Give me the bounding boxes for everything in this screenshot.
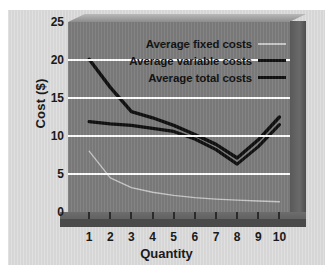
x-tick-mark	[215, 212, 217, 219]
x-tick-mark	[257, 212, 259, 219]
plot-area: Average fixed costs Average variable cos…	[68, 22, 290, 212]
legend-swatch-thin-line-icon	[258, 43, 286, 45]
x-tick-mark	[173, 212, 175, 219]
gridline-15	[68, 97, 290, 99]
y-tick-label: 5	[32, 168, 64, 180]
legend-label: Average variable costs	[129, 55, 252, 67]
series-line-average-fixed-costs	[89, 151, 279, 202]
x-tick-mark	[152, 212, 154, 219]
legend-label: Average total costs	[148, 72, 252, 84]
legend-label: Average fixed costs	[146, 38, 252, 50]
x-tick-mark	[236, 212, 238, 219]
x-tick-mark	[109, 212, 111, 219]
y-axis: Cost ($) 25 20 15 10 5 0	[28, 0, 64, 255]
legend-swatch-thick-line-icon	[258, 59, 286, 62]
chart-base-front	[60, 219, 306, 227]
x-tick-mark	[88, 212, 90, 219]
chart-legend: Average fixed costs Average variable cos…	[108, 36, 286, 86]
legend-entry-average-variable-costs: Average variable costs	[129, 53, 286, 68]
chart-top-bevel	[68, 14, 306, 22]
y-tick-label: 15	[32, 92, 64, 104]
x-tick-mark	[130, 212, 132, 219]
y-tick-label: 0	[32, 206, 64, 218]
x-tick-mark	[278, 212, 280, 219]
x-tick-label: 10	[267, 230, 291, 244]
legend-swatch-thick-line-icon	[258, 76, 286, 79]
gridline-10	[68, 135, 290, 137]
y-tick-label: 25	[32, 16, 64, 28]
y-tick-label: 20	[32, 54, 64, 66]
chart-figure: Cost ($) 25 20 15 10 5 0 Average fixed c…	[0, 0, 333, 280]
gridline-5	[68, 173, 290, 175]
x-axis-title: Quantity	[0, 246, 333, 261]
x-tick-marks	[68, 212, 290, 220]
legend-entry-average-fixed-costs: Average fixed costs	[146, 36, 286, 51]
y-tick-label: 10	[32, 130, 64, 142]
x-tick-mark	[194, 212, 196, 219]
legend-entry-average-total-costs: Average total costs	[148, 70, 286, 85]
series-line-average-variable-costs	[89, 122, 279, 165]
chart-right-wall	[290, 21, 306, 216]
